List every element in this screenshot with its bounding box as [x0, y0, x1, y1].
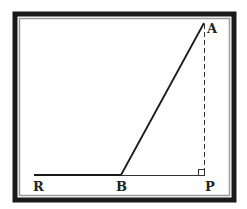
- label-r: R: [33, 179, 44, 194]
- label-a: A: [206, 21, 218, 36]
- label-b: B: [116, 179, 127, 194]
- segment-ba: [121, 23, 204, 175]
- geometry-diagram: A R B P: [0, 0, 247, 209]
- right-angle-marker: [199, 170, 205, 176]
- frame-outer: [15, 14, 234, 200]
- label-p: P: [205, 179, 215, 194]
